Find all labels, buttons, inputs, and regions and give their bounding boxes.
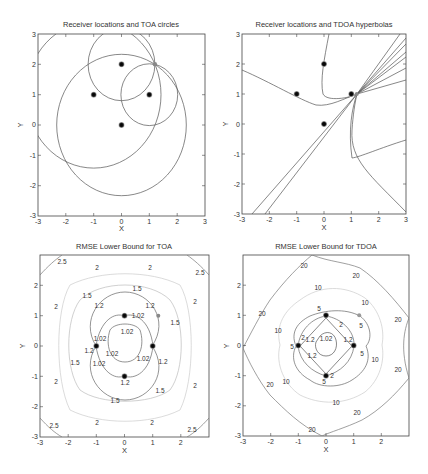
plot-rmse-toa: RMSE Lower Bound for TOA — [18, 242, 209, 455]
svg-text:2: 2 — [377, 216, 381, 223]
svg-text:-1: -1 — [295, 438, 301, 445]
svg-text:-3: -3 — [234, 211, 240, 218]
x-tick-labels: -3 -2 -1 0 1 2 — [240, 438, 383, 445]
svg-text:5: 5 — [317, 305, 321, 312]
svg-text:20: 20 — [300, 262, 308, 269]
svg-text:2: 2 — [54, 303, 58, 310]
y-tick-labels: -3 -2 -1 0 1 2 — [235, 282, 241, 439]
svg-text:1: 1 — [151, 439, 155, 446]
svg-text:3: 3 — [203, 218, 207, 225]
x-axis-label: X — [122, 446, 127, 455]
svg-text:-3: -3 — [235, 432, 241, 439]
svg-text:20: 20 — [352, 272, 360, 279]
x-axis-label: X — [321, 223, 326, 232]
plot-rmse-tdoa: RMSE Lower Bound for TDOA 20 — [222, 242, 409, 454]
svg-text:20: 20 — [394, 316, 402, 323]
svg-text:2: 2 — [330, 372, 334, 379]
svg-text:2: 2 — [179, 439, 183, 446]
y-axis-label: Y — [16, 122, 25, 127]
svg-text:5: 5 — [290, 343, 294, 350]
svg-text:-2: -2 — [234, 181, 240, 188]
svg-text:-2: -2 — [266, 216, 272, 223]
svg-text:1: 1 — [352, 438, 356, 445]
svg-text:2: 2 — [236, 61, 240, 68]
svg-text:1.5: 1.5 — [155, 387, 164, 394]
svg-text:-1: -1 — [32, 373, 38, 380]
svg-text:-3: -3 — [32, 433, 38, 440]
svg-text:1.5: 1.5 — [132, 285, 141, 292]
x-tick-labels: -3 -2 -1 0 1 2 3 — [239, 216, 408, 223]
svg-text:1.02: 1.02 — [320, 335, 333, 342]
svg-text:-1: -1 — [91, 218, 97, 225]
svg-text:1.5: 1.5 — [110, 397, 119, 404]
y-tick-labels: -3 -2 -1 0 1 2 — [32, 282, 38, 440]
svg-text:2: 2 — [34, 282, 38, 289]
svg-text:2: 2 — [193, 298, 197, 305]
svg-text:1.2: 1.2 — [94, 302, 103, 309]
svg-text:2: 2 — [95, 264, 99, 271]
svg-text:0: 0 — [32, 121, 36, 128]
y-tick-labels: -3 -2 -1 0 1 2 3 — [30, 31, 36, 219]
svg-text:1.2: 1.2 — [305, 336, 314, 343]
x-tick-labels: -3 -2 -1 0 1 2 — [37, 439, 183, 446]
svg-text:-2: -2 — [32, 403, 38, 410]
svg-text:10: 10 — [274, 327, 282, 334]
svg-text:2: 2 — [54, 378, 58, 385]
y-axis-label: Y — [221, 121, 230, 126]
svg-text:1.2: 1.2 — [307, 352, 316, 359]
svg-text:2: 2 — [148, 264, 152, 271]
svg-text:1.2: 1.2 — [120, 379, 129, 386]
svg-text:20: 20 — [266, 381, 274, 388]
x-axis-label: X — [323, 445, 328, 454]
svg-text:2: 2 — [95, 419, 99, 426]
svg-text:5: 5 — [359, 322, 363, 329]
svg-text:-2: -2 — [63, 218, 69, 225]
svg-text:20: 20 — [353, 409, 361, 416]
svg-text:1: 1 — [349, 216, 353, 223]
svg-text:10: 10 — [282, 378, 290, 385]
svg-text:5: 5 — [360, 350, 364, 357]
svg-text:10: 10 — [314, 284, 322, 291]
source-marker — [355, 92, 359, 96]
y-axis-label: Y — [18, 343, 27, 348]
svg-text:3: 3 — [236, 31, 240, 38]
y-tick-labels: -3 -2 -1 0 1 2 3 — [234, 31, 240, 218]
svg-text:1: 1 — [237, 312, 241, 319]
svg-text:1.02: 1.02 — [132, 312, 145, 319]
svg-text:3: 3 — [404, 216, 408, 223]
svg-text:1.5: 1.5 — [170, 319, 179, 326]
svg-text:1.2: 1.2 — [343, 336, 352, 343]
svg-text:3: 3 — [32, 31, 36, 38]
svg-text:-2: -2 — [30, 182, 36, 189]
svg-text:2: 2 — [193, 382, 197, 389]
svg-text:20: 20 — [394, 366, 402, 373]
svg-text:1: 1 — [32, 91, 36, 98]
svg-text:1.02: 1.02 — [106, 350, 119, 357]
plot-title: RMSE Lower Bound for TOA — [76, 242, 172, 251]
svg-text:-3: -3 — [35, 218, 41, 225]
axes-box — [40, 255, 209, 437]
svg-text:-1: -1 — [93, 439, 99, 446]
svg-text:-1: -1 — [234, 151, 240, 158]
svg-text:1: 1 — [147, 218, 151, 225]
svg-text:-2: -2 — [268, 438, 274, 445]
svg-text:-2: -2 — [65, 439, 71, 446]
svg-text:1.5: 1.5 — [82, 292, 91, 299]
svg-text:-3: -3 — [37, 439, 43, 446]
svg-text:1.2: 1.2 — [145, 302, 154, 309]
svg-text:1.5: 1.5 — [70, 359, 79, 366]
y-axis-label: Y — [222, 343, 231, 348]
plot-toa-circles: Receiver locations and TOA circles — [16, 20, 207, 233]
source-marker — [153, 62, 157, 66]
svg-text:1.02: 1.02 — [121, 328, 134, 335]
svg-text:10: 10 — [371, 356, 379, 363]
svg-text:10: 10 — [361, 299, 369, 306]
svg-text:-3: -3 — [30, 212, 36, 219]
plot-title: Receiver locations and TDOA hyperbolas — [255, 20, 392, 29]
svg-text:2: 2 — [150, 419, 154, 426]
plot-title: RMSE Lower Bound for TDOA — [275, 242, 377, 251]
svg-text:2: 2 — [32, 61, 36, 68]
svg-text:1.2: 1.2 — [84, 347, 93, 354]
svg-text:-1: -1 — [294, 216, 300, 223]
svg-text:2.5: 2.5 — [49, 422, 58, 429]
